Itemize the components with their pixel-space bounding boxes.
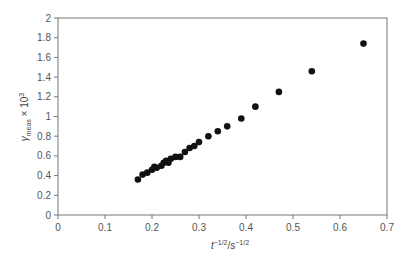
data-point [309, 68, 316, 75]
x-tick-label: 0.1 [98, 222, 112, 233]
y-tick-label: 0.2 [37, 190, 51, 201]
data-point [360, 40, 367, 47]
data-point [205, 133, 212, 140]
y-tick-label: 1.8 [37, 32, 51, 43]
x-tick-label: 0.3 [192, 222, 206, 233]
data-points [135, 40, 367, 183]
data-point [196, 139, 203, 146]
data-point [238, 115, 245, 122]
data-point [135, 176, 142, 183]
y-tick-label: 0.6 [37, 150, 51, 161]
data-point [215, 128, 222, 135]
plot-frame [58, 18, 387, 215]
x-tick-label: 0 [55, 222, 61, 233]
data-point [252, 103, 259, 110]
y-tick-label: 0.8 [37, 131, 51, 142]
data-point [177, 154, 184, 161]
y-tick-label: 1 [45, 111, 51, 122]
x-tick-label: 0.5 [286, 222, 300, 233]
y-tick-label: 1.6 [37, 52, 51, 63]
data-point [224, 123, 231, 130]
y-tick-label: 1.2 [37, 91, 51, 102]
scatter-chart: 00.20.40.60.811.21.41.61.82 00.10.20.30.… [0, 0, 406, 263]
y-tick-label: 2 [45, 13, 51, 24]
y-axis-ticks: 00.20.40.60.811.21.41.61.82 [37, 13, 58, 221]
y-tick-label: 0.4 [37, 170, 51, 181]
x-tick-label: 0.6 [333, 222, 347, 233]
y-tick-label: 0 [45, 210, 51, 221]
y-tick-label: 1.4 [37, 72, 51, 83]
x-axis-ticks: 00.10.20.30.40.50.60.7 [55, 215, 394, 233]
x-tick-label: 0.7 [380, 222, 394, 233]
x-tick-label: 0.4 [239, 222, 253, 233]
x-tick-label: 0.2 [145, 222, 159, 233]
data-point [276, 89, 283, 96]
y-axis-label: γmeas × 103 [18, 93, 32, 142]
x-axis-label: t−1/2/s−1/2 [211, 239, 249, 251]
